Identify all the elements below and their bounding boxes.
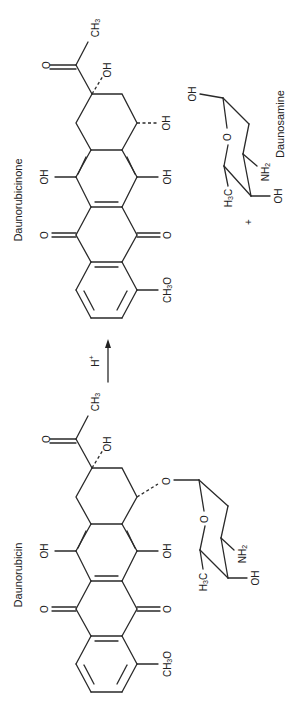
anomeric-oh-label: OH xyxy=(187,87,198,102)
daunorubicinone-structure xyxy=(50,42,160,318)
daunorubicinone-labels: O CH3 OH OH OH OH O O CH3O Daunorubicino… xyxy=(12,19,173,303)
reaction-diagram: O CH3 OH OH OH OH O O CH3O Daunorubicino… xyxy=(0,0,293,722)
sugar-methyl-label: H3C xyxy=(223,189,234,207)
sugar-oh-label: OH xyxy=(250,571,261,586)
ring-o-label: O xyxy=(199,515,210,523)
daunorubicin-labels: O CH3 OH O OH OH O O CH3O O H3C NH2 OH xyxy=(39,393,261,677)
quinone-o1-label: O xyxy=(39,231,50,239)
methoxy-label: CH3O xyxy=(162,651,173,677)
sugar-oh-label: OH xyxy=(273,189,284,204)
methyl-label: CH3 xyxy=(90,19,101,37)
c6-oh-label: OH xyxy=(39,170,50,185)
c6-oh-label: OH xyxy=(39,544,50,559)
quinone-o2-label: O xyxy=(162,605,173,613)
daunorubicinone-title: Daunorubicinone xyxy=(12,158,24,241)
amine-label: NH2 xyxy=(260,163,271,181)
ketone-o-label: O xyxy=(41,61,52,69)
c9-oh-label: OH xyxy=(102,437,113,452)
acid-catalyst-label: H+ xyxy=(88,355,101,366)
ketone-o-label: O xyxy=(41,435,52,443)
reaction-arrow xyxy=(105,339,111,382)
methyl-label: CH3 xyxy=(90,393,101,411)
c11-oh-label: OH xyxy=(162,170,173,185)
c11-oh-label: OH xyxy=(162,544,173,559)
amine-label: NH2 xyxy=(237,545,248,563)
quinone-o1-label: O xyxy=(39,605,50,613)
plus-sign: + xyxy=(243,219,254,225)
glycosidic-o-label: O xyxy=(161,477,172,485)
daunosamine-labels: OH O H3C NH2 OH Daunosamine xyxy=(187,87,286,208)
c7-oh-label: OH xyxy=(161,116,172,131)
daunorubicin-structure xyxy=(50,416,247,692)
daunorubicin-title: Daunorubicin xyxy=(12,543,24,608)
ring-o-label: O xyxy=(222,133,233,141)
methoxy-label: CH3O xyxy=(162,277,173,303)
c9-oh-label: OH xyxy=(102,63,113,78)
sugar-methyl-label: H3C xyxy=(198,573,209,591)
quinone-o2-label: O xyxy=(162,231,173,239)
daunosamine-title: Daunosamine xyxy=(274,90,286,158)
